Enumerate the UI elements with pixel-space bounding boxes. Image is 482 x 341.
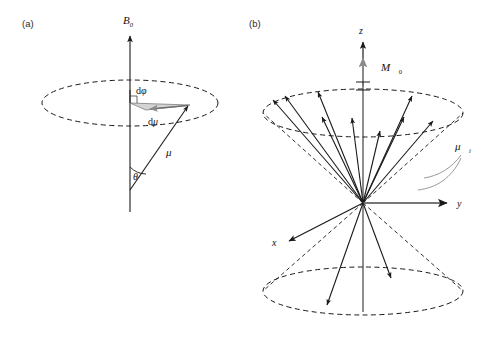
x-axis-label: x [271,237,277,248]
moment-vector-up-7 [363,96,412,203]
mui-label: μ⃗i [454,140,471,154]
b0-axis-subscript: 0 [130,21,134,28]
panel-a-group: (a) B0 dφ dμ⃗ μ⃗ [22,14,218,212]
m0-subscript: 0 [399,68,402,75]
lower-moment-vectors [327,203,391,305]
moment-vector-up-2 [285,96,363,203]
right-angle-marker [130,96,137,103]
theta-label: θ [133,171,138,182]
panel-b-label: (b) [249,18,261,29]
z-axis-label: z [358,25,363,36]
b0-axis-label: B0 [123,14,134,28]
upper-cone-edge-right [363,113,463,203]
panel-a-label: (a) [22,18,34,29]
mui-subscript: i [469,147,471,154]
figure-container: (a) B0 dφ dμ⃗ μ⃗ [0,0,482,341]
dmu-label: dμ⃗ [148,116,166,127]
lower-cone-edge-right [363,203,463,291]
upper-moment-vectors [273,92,433,203]
moment-vector-up-1 [273,100,363,203]
mu-label: μ⃗ [165,146,180,158]
moment-vector-up-8 [363,121,433,203]
upper-cone-edge-left [263,113,363,203]
physics-diagram: (a) B0 dφ dμ⃗ μ⃗ [0,0,482,341]
dphi-label: dφ [136,85,147,96]
mui-leader-upper [424,155,461,178]
m0-label: M⃗0 [380,61,402,75]
panel-b-group: (b) z M⃗0 [249,18,471,315]
dphi-symbol: φ [141,85,147,96]
dmu-symbol: μ⃗ [152,116,166,127]
moment-vector-up-4 [322,117,363,203]
y-axis-label: y [456,198,462,209]
